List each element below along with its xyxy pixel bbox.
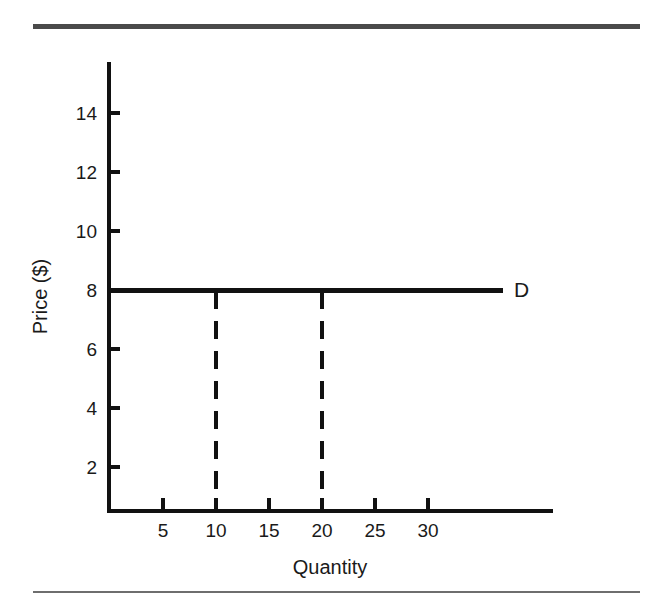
y-tick-4 — [111, 406, 120, 410]
quantity-guide-line-10 — [214, 291, 218, 510]
y-tick-12 — [111, 170, 120, 174]
top-divider-rule — [33, 24, 640, 29]
y-tick-label-14: 14 — [76, 104, 97, 123]
y-tick-label-8: 8 — [86, 281, 97, 300]
y-tick-label-4: 4 — [86, 399, 97, 418]
y-tick-14 — [111, 111, 120, 115]
x-axis-line — [107, 509, 553, 513]
demand-curve-figure: 14 12 10 8 6 4 2 5 10 15 20 25 30 D Pric… — [0, 0, 670, 613]
demand-curve-label: D — [514, 279, 529, 300]
x-tick-label-15: 15 — [249, 521, 289, 540]
y-tick-2 — [111, 465, 120, 469]
demand-curve-line — [109, 288, 503, 293]
x-tick-25 — [373, 498, 377, 510]
x-tick-label-10: 10 — [196, 521, 236, 540]
x-tick-5 — [161, 498, 165, 510]
quantity-guide-line-20 — [320, 291, 324, 510]
y-tick-6 — [111, 347, 120, 351]
y-axis-title: Price ($) — [29, 227, 52, 367]
x-tick-label-30: 30 — [408, 521, 448, 540]
x-tick-label-5: 5 — [143, 521, 183, 540]
x-tick-15 — [267, 498, 271, 510]
x-axis-title: Quantity — [170, 556, 490, 579]
bottom-divider-rule — [33, 591, 640, 593]
y-tick-label-2: 2 — [86, 458, 97, 477]
x-tick-30 — [426, 498, 430, 510]
y-tick-10 — [111, 229, 120, 233]
y-tick-label-12: 12 — [76, 163, 97, 182]
x-tick-label-25: 25 — [355, 521, 395, 540]
x-tick-label-20: 20 — [302, 521, 342, 540]
y-tick-label-6: 6 — [86, 340, 97, 359]
y-tick-label-10: 10 — [76, 222, 97, 241]
